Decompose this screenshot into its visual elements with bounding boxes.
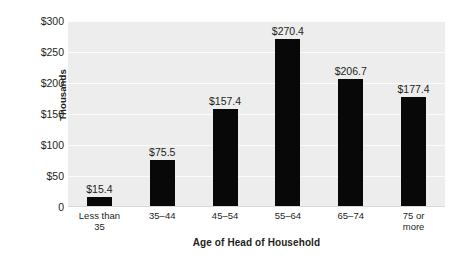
bar-value-label: $177.4 [374, 83, 454, 95]
y-axis-tick-label: $150 [2, 109, 64, 120]
bar-chart: $300$250$200$150$100$500 Thousands Age o… [0, 0, 459, 261]
bar-value-label: $270.4 [248, 25, 328, 37]
y-axis-tick-label: $200 [2, 78, 64, 89]
bar[interactable] [275, 39, 300, 207]
y-axis-tick-labels: $300$250$200$150$100$500 [0, 0, 64, 261]
bar-value-label: $75.5 [122, 146, 202, 158]
gridline [68, 21, 445, 22]
x-axis-baseline [68, 206, 445, 207]
bar-value-label: $157.4 [185, 95, 265, 107]
bar[interactable] [338, 79, 363, 207]
bar-value-label: $206.7 [311, 65, 391, 77]
x-axis-title: Age of Head of Household [68, 237, 445, 248]
x-axis-tick-label: 45–54 [194, 210, 257, 221]
bar[interactable] [150, 160, 175, 207]
y-axis-tick-label: $250 [2, 47, 64, 58]
gridline [68, 52, 445, 53]
y-axis-tick-label: $300 [2, 16, 64, 27]
gridline [68, 114, 445, 115]
x-axis-tick-label: 65–74 [319, 210, 382, 221]
y-axis-tick-label: $50 [2, 171, 64, 182]
x-axis-tick-label: Less than35 [68, 210, 131, 232]
x-axis-tick-label: 75 ormore [382, 210, 445, 232]
y-axis-tick-label: 0 [2, 202, 64, 213]
plot-area [68, 21, 445, 207]
y-axis-title: Thousands [57, 50, 68, 140]
x-axis-tick-label: 35–44 [131, 210, 194, 221]
gridline [68, 176, 445, 177]
bar-value-label: $15.4 [59, 183, 139, 195]
bar[interactable] [213, 109, 238, 207]
x-axis-tick-label: 55–64 [257, 210, 320, 221]
bar[interactable] [401, 97, 426, 207]
y-axis-tick-label: $100 [2, 140, 64, 151]
